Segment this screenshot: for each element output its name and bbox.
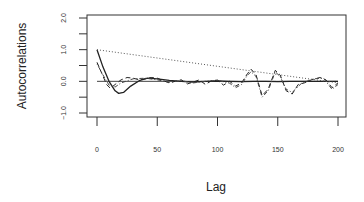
series-dot-dash [97,64,338,97]
y-axis: −1.00.01.02.0 [60,13,87,120]
y-tick-label: 2.0 [60,13,67,23]
x-tick-label: 150 [272,146,284,153]
y-tick-label: 0.0 [60,76,67,86]
x-tick-label: 100 [212,146,224,153]
x-axis-title: Lag [206,180,226,194]
series-solid [97,50,338,94]
y-tick-label: −1.0 [60,106,67,120]
series-dotted [97,50,338,83]
y-tick-label: 1.0 [60,45,67,55]
x-tick-label: 50 [153,146,161,153]
x-axis: 050100150200 [95,117,344,153]
x-tick-label: 200 [332,146,344,153]
x-tick-label: 0 [95,146,99,153]
series-layer [97,50,338,97]
acf-chart: −1.00.01.02.0 050100150200 Lag Autocorre… [0,0,364,202]
y-axis-title: Autocorrelations [15,23,29,110]
